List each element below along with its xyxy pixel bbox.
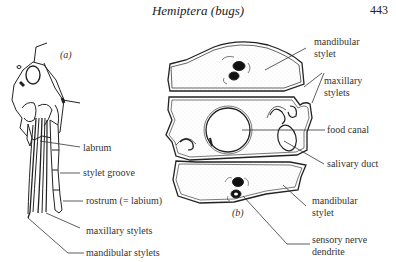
label-sensory-nerve-2: dendrite [312,246,345,257]
label-labrum: labrum [83,142,111,153]
antenna [34,43,47,63]
label-sensory-nerve-1: sensory nerve [312,234,367,245]
label-maxillary-stylets-1: maxillary [324,75,362,86]
label-maxillary-stylets-2: stylets [324,87,350,98]
label-mandibular-stylet-bottom-2: stylet [312,207,334,218]
label-mandibular-stylet-top-1: mandibular [314,36,360,47]
label-mandibular-stylet-bottom-1: mandibular [312,195,358,206]
stylet-cross-section [166,42,312,203]
panel-b-label: (b) [232,207,244,218]
label-mandibular-stylets: mandibular stylets [86,247,160,258]
bug-head-drawing [12,43,80,218]
label-maxillary-stylets: maxillary stylets [86,225,152,236]
label-food-canal: food canal [327,124,369,135]
compound-eye [26,66,40,84]
rostrum [50,120,62,213]
label-stylet-groove: stylet groove [83,167,135,178]
label-rostrum: rostrum (= labium) [86,195,162,206]
label-mandibular-stylet-top-2: stylet [314,48,336,59]
panel-a-label: (a) [60,49,72,60]
label-salivary-duct: salivary duct [327,158,378,169]
